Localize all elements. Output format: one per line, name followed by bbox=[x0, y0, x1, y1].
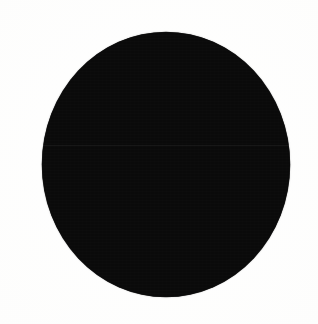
black-circle-shape bbox=[42, 32, 290, 297]
scan-seam-line bbox=[42, 145, 290, 146]
scan-grain-overlay bbox=[42, 32, 290, 297]
image-canvas bbox=[0, 0, 318, 324]
